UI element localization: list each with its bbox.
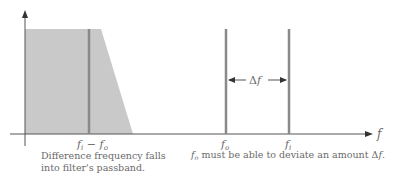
y-axis-arrow-icon — [22, 10, 28, 18]
left-caption-line1: Difference frequency falls — [41, 150, 166, 161]
frequency-diagram: f Δf fi − fo fo fi Difference frequency … — [0, 0, 394, 185]
filter-passband-region — [25, 29, 133, 134]
right-caption: fo must be able to deviate an amount Δf. — [190, 149, 385, 162]
left-caption-line2: into filter's passband. — [41, 162, 145, 173]
delta-f-arrow-right-icon — [280, 77, 287, 83]
x-axis-arrow-icon — [365, 131, 373, 137]
delta-f-label: Δf — [249, 74, 263, 87]
delta-f-arrow-left-icon — [228, 77, 235, 83]
x-axis-label: f — [376, 127, 384, 141]
